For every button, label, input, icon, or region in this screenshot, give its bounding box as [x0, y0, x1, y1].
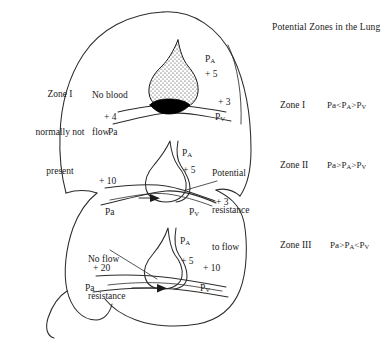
zone2-arterial-label: Pa: [105, 207, 115, 218]
lingula-outline: [47, 291, 67, 338]
zone1-arterial-value: + 4: [104, 112, 116, 123]
lung-zones-figure: Potential Zones in the Lung Zone I norma…: [0, 0, 389, 339]
zone2-venous-label: PV: [189, 207, 199, 218]
zone3-arterial-value: + 20: [93, 263, 110, 274]
zone1-alveolar-value: + 5: [205, 69, 217, 80]
zone2-arterial-value: + 10: [99, 176, 116, 187]
zone2-artery-upper-wall: [105, 185, 215, 201]
zone1-venous-value: + 3: [218, 97, 230, 108]
zone3-status-label: No flow resistance: [88, 228, 125, 327]
zone3-venous-value: + 10: [203, 263, 220, 274]
zone1-collapsed-capillary: [150, 99, 190, 114]
zone1-venous-label: PV: [215, 112, 225, 123]
zone2-status-line-3: to flow: [212, 241, 249, 253]
zone1-vein-lower-wall: [113, 113, 231, 124]
zone3-flow-arrow-head: [157, 284, 167, 293]
zone3-alveolar-label: PA: [180, 236, 190, 247]
legend-zone-3-formula: Pa>PA<PV: [330, 240, 369, 251]
hilum-line-upper: [228, 45, 241, 124]
legend-zone-2-formula: Pa>PA>PV: [327, 160, 366, 171]
legend-zone-2-name: Zone II: [280, 160, 308, 171]
legend-zone-1-name: Zone I: [280, 100, 305, 111]
zone3-alveolus: [144, 228, 182, 289]
zone3-alveolar-value: + 5: [181, 256, 193, 267]
legend-zone-1-formula: Pa<PA>PV: [327, 100, 366, 111]
zone1-alveolar-label: PA: [205, 54, 215, 65]
zone2-alveolar-label: PA: [182, 148, 192, 159]
zone1-status-line-1: No blood: [92, 89, 128, 101]
figure-title: Potential Zones in the Lung: [272, 22, 380, 33]
zone3-arterial-label: Pa: [85, 283, 95, 294]
left-note-line-3: present: [12, 165, 108, 178]
zone2-venous-value: + 3: [216, 197, 228, 208]
zone2-status-label: Potential resistance to flow: [212, 142, 249, 278]
legend-zone-3-name: Zone III: [280, 240, 311, 251]
zone3-venous-label: PV: [200, 283, 210, 294]
zone2-status-line-1: Potential: [212, 167, 249, 179]
zone1-arterial-label: Pa: [108, 127, 118, 138]
zone2-alveolar-value: + 5: [183, 165, 195, 176]
